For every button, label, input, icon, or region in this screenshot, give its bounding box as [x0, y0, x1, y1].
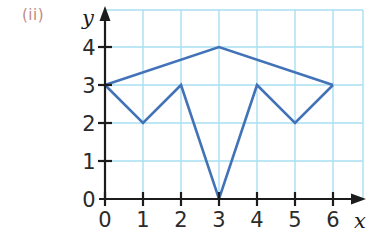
x-tick-labels: 0 1 2 3 4 5 6 [98, 208, 339, 232]
x-tick-label-5: 5 [288, 208, 301, 232]
x-tick-label-4: 4 [250, 208, 263, 232]
coordinate-plot: 4 3 2 1 0 0 1 2 3 4 5 6 y x [0, 0, 379, 248]
y-tick-label-2: 2 [82, 112, 95, 136]
x-tick-label-2: 2 [174, 208, 187, 232]
grid-lines [105, 10, 363, 199]
y-tick-label-3: 3 [82, 74, 95, 98]
x-tick-label-6: 6 [326, 208, 339, 232]
axes-group [98, 14, 358, 206]
y-tick-labels: 4 3 2 1 0 [82, 36, 95, 212]
x-tick-label-0: 0 [98, 208, 111, 232]
figure-container: (ii) [0, 0, 379, 248]
y-tick-label-0: 0 [82, 188, 95, 212]
y-axis-label: y [81, 6, 95, 30]
x-tick-label-3: 3 [212, 208, 225, 232]
y-axis-arrowhead [100, 6, 111, 21]
y-tick-label-4: 4 [82, 36, 95, 60]
x-tick-label-1: 1 [136, 208, 149, 232]
x-axis-arrowhead [351, 194, 366, 205]
x-axis-label: x [354, 209, 366, 233]
y-tick-label-1: 1 [82, 150, 95, 174]
